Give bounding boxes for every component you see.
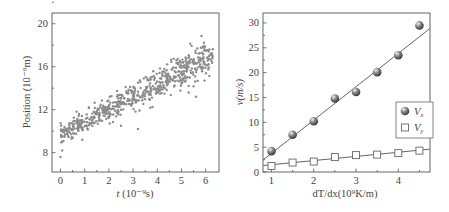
y-tick-label: 16 — [38, 61, 49, 72]
y-tick-label: 30 — [249, 17, 260, 28]
velocity-vs-gradient-chart: 1234051015202530 v(m/s) dT/dx(10⁹K/m) Vx… — [234, 13, 433, 200]
data-point — [268, 163, 275, 170]
fit-line — [263, 149, 430, 165]
y-axis-label: Position (10⁻⁹m) — [21, 55, 33, 128]
data-point — [373, 68, 382, 77]
scatter-points — [59, 35, 214, 158]
x-tick-label: 3 — [353, 175, 358, 186]
plot-frame — [52, 13, 219, 172]
y-tick-label: 10 — [249, 117, 260, 128]
x-tick-label: 0 — [58, 175, 63, 186]
data-point — [289, 159, 296, 166]
legend: Vx Vy — [396, 102, 433, 138]
sphere-marker-icon — [401, 107, 410, 116]
y-tick-label: 5 — [254, 142, 259, 153]
data-point — [416, 147, 423, 154]
y-axis-label: v(m/s) — [234, 78, 246, 105]
axis-ticks: 01234568121620 — [38, 2, 209, 186]
x-axis-label: dT/dx(10⁹K/m) — [313, 188, 378, 200]
data-point — [288, 130, 297, 139]
x-tick-label: 4 — [155, 175, 161, 186]
x-tick-label: 2 — [311, 175, 316, 186]
x-tick-label: 1 — [269, 175, 274, 186]
data-point — [310, 158, 317, 165]
x-tick-label: 3 — [130, 175, 135, 186]
data-point — [331, 94, 340, 103]
y-tick-label: 15 — [249, 92, 260, 103]
data-point — [267, 147, 276, 156]
x-tick-label: 4 — [396, 175, 402, 186]
position-vs-time-chart: 01234568121620 Position (10⁻⁹m) t (10⁻⁹s… — [21, 2, 219, 200]
data-point — [331, 154, 338, 161]
fit-line — [263, 28, 430, 160]
plot-frame — [263, 13, 430, 172]
square-marker-icon — [402, 124, 409, 131]
x-tick-label: 2 — [106, 175, 111, 186]
data-point — [415, 21, 424, 30]
x-tick-label: 6 — [203, 175, 208, 186]
data-point — [353, 152, 360, 159]
data-point — [395, 150, 402, 157]
x-axis-label: t (10⁻⁹s) — [117, 188, 154, 200]
y-tick-label: 0 — [254, 167, 259, 178]
data-point — [309, 117, 318, 126]
data-point — [394, 51, 403, 60]
y-tick-label: 20 — [249, 67, 260, 78]
data-point — [374, 151, 381, 158]
y-tick-label: 25 — [249, 42, 260, 53]
y-tick-label: 8 — [43, 147, 48, 158]
figure: 01234568121620 Position (10⁻⁹m) t (10⁻⁹s… — [0, 0, 449, 212]
x-tick-label: 1 — [82, 175, 87, 186]
y-tick-label: 20 — [38, 18, 49, 29]
x-tick-label: 5 — [179, 175, 184, 186]
data-series — [263, 21, 430, 169]
data-point — [352, 88, 361, 97]
y-tick-label: 12 — [38, 104, 49, 115]
